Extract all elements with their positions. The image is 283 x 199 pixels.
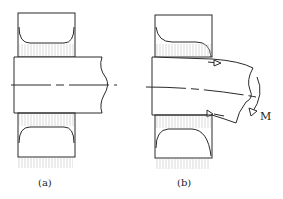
panel-b [146, 15, 260, 169]
panel-a [11, 13, 117, 168]
panel-b-label: (b) [177, 177, 191, 188]
top-hatch-b [156, 44, 211, 56]
top-pressure-curve-a [19, 27, 74, 43]
bottom-pressure-curve-b [156, 129, 211, 156]
base-hatch-a [18, 158, 73, 168]
moment-label: M [260, 110, 271, 123]
top-hatch-a [19, 44, 74, 56]
bottom-pressure-curve-a [19, 127, 74, 143]
bottom-hatch-b [156, 116, 211, 128]
moment-arc [252, 77, 260, 113]
base-hatch-b [155, 159, 210, 169]
shaft-b [152, 57, 253, 123]
panel-a-label: (a) [38, 177, 52, 188]
bottom-hatch-a [19, 114, 74, 126]
moment-arrowhead-icon [249, 108, 257, 116]
bearing-diagram [0, 0, 283, 199]
